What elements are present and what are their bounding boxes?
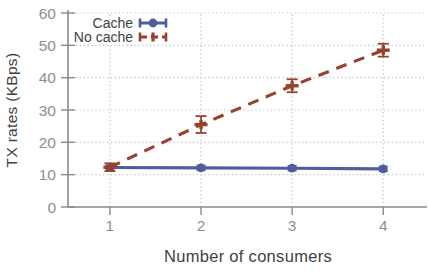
tx-rates-chart: 01020304050601234TX rates (KBps)Number o…	[0, 0, 429, 273]
data-point-circle	[288, 164, 297, 173]
y-tick-label: 40	[39, 69, 57, 86]
x-tick-label: 2	[197, 217, 206, 234]
x-tick-label: 1	[106, 217, 115, 234]
data-point-circle	[379, 164, 388, 173]
y-tick-label: 0	[47, 199, 56, 216]
data-point-circle	[197, 163, 206, 172]
x-axis-label: Number of consumers	[164, 247, 332, 265]
y-tick-label: 50	[39, 37, 57, 54]
cache-line	[110, 168, 383, 169]
y-tick-label: 60	[39, 5, 57, 22]
x-tick-label: 3	[288, 217, 297, 234]
legend-sample-marker	[149, 19, 158, 28]
figure-tx-rates: 01020304050601234TX rates (KBps)Number o…	[0, 0, 429, 273]
y-axis-label: TX rates (KBps)	[3, 53, 20, 168]
y-tick-label: 30	[39, 102, 57, 119]
x-tick-label: 4	[379, 217, 388, 234]
y-tick-label: 10	[39, 166, 57, 183]
y-tick-label: 20	[39, 134, 57, 151]
legend-label: No cache	[74, 29, 133, 45]
chart-background	[0, 0, 429, 273]
